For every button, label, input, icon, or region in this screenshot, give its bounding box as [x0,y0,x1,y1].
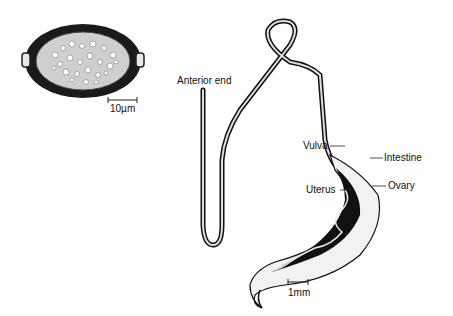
egg [22,24,144,103]
label-anterior-end: Anterior end [177,76,231,86]
worm-anterior [203,21,335,245]
label-vulva: Vulva [303,141,328,151]
worm-posterior [250,155,380,308]
label-uterus: Uterus [306,185,335,195]
label-intestine: Intestine [384,153,422,163]
label-ovary: Ovary [388,181,415,191]
worm-scale-label: 1mm [288,288,310,298]
egg-scale-label: 10µm [110,104,135,114]
